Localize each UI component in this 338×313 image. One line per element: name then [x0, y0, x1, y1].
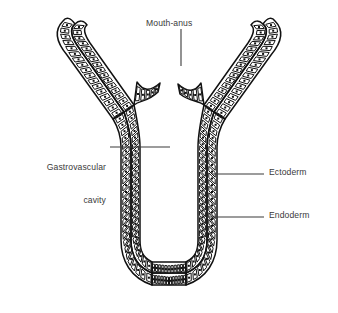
cell-nucleus [135, 210, 137, 212]
cell-nucleus [200, 243, 202, 245]
cell-nucleus [207, 111, 209, 113]
label-gastrovascular-line2: cavity [6, 195, 106, 206]
cell-nucleus [136, 243, 138, 245]
cell-nucleus [178, 279, 180, 281]
cell-nucleus [208, 252, 210, 254]
cell-nucleus [124, 130, 126, 132]
cell-nucleus [135, 196, 137, 198]
cell-nucleus [122, 100, 124, 102]
cell-nucleus [228, 101, 230, 103]
cell-nucleus [96, 64, 98, 66]
cell-nucleus [202, 190, 204, 192]
cell-nucleus [125, 157, 127, 159]
cell-nucleus [135, 203, 137, 205]
cell-nucleus [211, 205, 213, 207]
cell-nucleus [211, 198, 213, 200]
cell-nucleus [165, 268, 167, 270]
cell-nucleus [240, 85, 242, 87]
cell-nucleus [152, 278, 154, 280]
cell-nucleus [112, 107, 114, 109]
cell-nucleus [168, 268, 170, 270]
cell-nucleus [175, 279, 177, 281]
cell-nucleus [185, 92, 187, 94]
cell-nucleus [76, 32, 78, 34]
cell-nucleus [100, 91, 102, 93]
cell-nucleus [210, 238, 212, 240]
cell-nucleus [135, 190, 137, 192]
cell-nucleus [209, 245, 211, 247]
cell-nucleus [130, 258, 132, 260]
cell-nucleus [206, 258, 208, 260]
cell-nucleus [82, 42, 84, 44]
cell-nucleus [174, 268, 176, 270]
cell-nucleus [116, 112, 118, 114]
cell-nucleus [143, 261, 145, 263]
cell-nucleus [135, 157, 137, 159]
cell-nucleus [202, 216, 204, 218]
cell-nucleus [254, 42, 256, 44]
cell-nucleus [211, 218, 213, 220]
cell-nucleus [159, 267, 161, 269]
cell-nucleus [210, 105, 212, 107]
cell-nucleus [119, 118, 121, 120]
cell-nucleus [225, 85, 227, 87]
cell-nucleus [135, 216, 137, 218]
cell-nucleus [202, 170, 204, 172]
cell-nucleus [71, 47, 73, 49]
cell-nucleus [148, 277, 150, 279]
cell-nucleus [188, 265, 190, 267]
cell-nucleus [89, 75, 91, 77]
cell-nucleus [204, 124, 206, 126]
label-ectoderm: Ectoderm [269, 167, 307, 178]
cell-nucleus [89, 53, 91, 55]
cell-nucleus [152, 91, 154, 93]
cell-nucleus [177, 267, 179, 269]
cell-nucleus [135, 150, 137, 152]
cell-nucleus [232, 96, 234, 98]
cell-nucleus [134, 130, 136, 132]
right-arm-ectoderm-cells [217, 22, 278, 117]
cell-nucleus [255, 64, 257, 66]
cell-nucleus [172, 280, 174, 282]
cell-nucleus [135, 176, 137, 178]
base-endoderm-cells [153, 264, 186, 273]
cell-nucleus [202, 223, 204, 225]
cell-nucleus [134, 143, 136, 145]
cell-nucleus [156, 88, 158, 90]
cell-nucleus [184, 267, 186, 269]
cell-nucleus [67, 42, 69, 44]
cell-nucleus [103, 74, 105, 76]
cell-nucleus [203, 130, 205, 132]
cell-nucleus [124, 137, 126, 139]
cell-nucleus [118, 95, 120, 97]
organism-diagram: Mouth-anus Gastrovascular cavity Ectoder… [0, 0, 338, 313]
cell-nucleus [169, 280, 171, 282]
cell-nucleus [233, 74, 235, 76]
cell-nucleus [148, 265, 150, 267]
cell-nucleus [202, 196, 204, 198]
cell-nucleus [203, 264, 205, 266]
cell-nucleus [125, 205, 127, 207]
cell-nucleus [104, 96, 106, 98]
cell-nucleus [211, 178, 213, 180]
cell-nucleus [125, 198, 127, 200]
cell-nucleus [142, 273, 144, 275]
cell-nucleus [81, 64, 83, 66]
cell-nucleus [137, 249, 139, 251]
cell-nucleus [266, 47, 268, 49]
cell-nucleus [211, 157, 213, 159]
cell-nucleus [215, 124, 217, 126]
cell-nucleus [125, 144, 127, 146]
cell-nucleus [158, 279, 160, 281]
cell-nucleus [201, 236, 203, 238]
cell-nucleus [121, 124, 123, 126]
cell-nucleus [202, 176, 204, 178]
cell-nucleus [125, 225, 127, 227]
cell-nucleus [180, 267, 182, 269]
cell-nucleus [140, 255, 142, 257]
cell-nucleus [258, 26, 260, 28]
cell-nucleus [78, 26, 80, 28]
cell-nucleus [240, 64, 242, 66]
cell-nucleus [147, 94, 149, 96]
cell-nucleus [65, 36, 67, 38]
